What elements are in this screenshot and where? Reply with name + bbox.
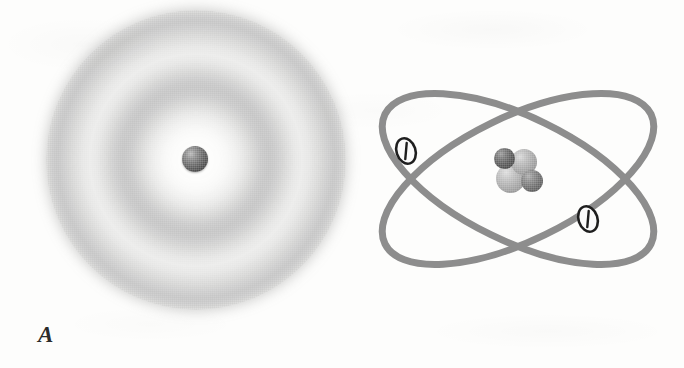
nucleon-sphere-4 — [521, 170, 543, 192]
electron-cloud-group — [46, 10, 346, 310]
nucleon-sphere-1 — [494, 148, 515, 169]
panel-label-a: A — [38, 322, 54, 348]
bohr-orbits-group — [362, 66, 674, 292]
electron-right — [575, 204, 601, 235]
panel-a-electron-cloud-model: A — [0, 0, 352, 368]
panel-b-planetary-model: B — [352, 0, 684, 368]
atomic-models-figure: A — [0, 0, 684, 368]
nucleus-sphere — [182, 146, 208, 172]
nucleus-cluster — [494, 146, 550, 198]
